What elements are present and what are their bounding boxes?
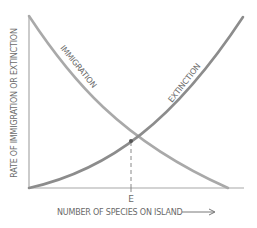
equilibrium-label: E <box>128 194 134 204</box>
extinction-curve <box>29 17 243 188</box>
immigration-curve <box>29 16 228 188</box>
x-axis-label: NUMBER OF SPECIES ON ISLAND <box>57 208 183 217</box>
intersection-point <box>129 139 133 143</box>
extinction-curve-label: EXTINCTION <box>166 62 202 105</box>
island-biogeography-diagram: IMMIGRATION EXTINCTION E RATE OF IMMIGRA… <box>0 0 257 228</box>
y-axis-label: RATE OF IMMIGRATION OR EXTINCTION <box>10 28 19 178</box>
